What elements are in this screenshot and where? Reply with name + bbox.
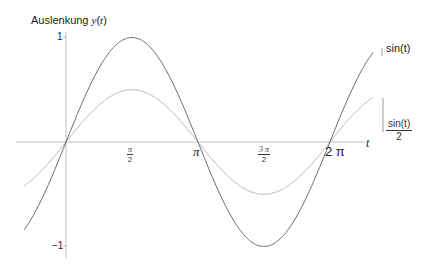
y-tick-label-1: 1 — [57, 31, 63, 42]
frac-numerator: 3 π — [258, 145, 270, 155]
legend-sin: sin(t) — [386, 42, 410, 54]
x-tick-label-3pi-half: 3 π 2 — [258, 145, 270, 164]
paren: ) — [103, 14, 107, 26]
frac-denominator: 2 — [262, 155, 266, 164]
y-tick-label-neg1: −1 — [52, 240, 63, 251]
frac-denominator: 2 — [396, 131, 402, 143]
frac-numerator: sin(t) — [386, 118, 412, 131]
legend-sin-half: sin(t) 2 — [386, 118, 412, 143]
x-tick-label-2pi: 2 π — [325, 144, 345, 159]
y-axis-label: Auslenkung y(t) — [31, 14, 107, 26]
plot-area — [0, 0, 427, 273]
x-axis-label: t — [366, 136, 369, 151]
x-tick-label-pi: π — [193, 144, 200, 160]
frac-denominator: 2 — [128, 155, 132, 164]
frac-numerator: π — [127, 145, 133, 155]
x-tick-label-pi-half: π 2 — [127, 145, 133, 164]
y-axis-label-text: Auslenkung — [31, 14, 92, 26]
